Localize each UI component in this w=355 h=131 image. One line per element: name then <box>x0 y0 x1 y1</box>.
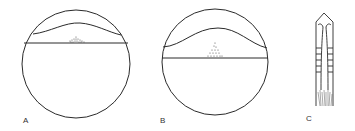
panel-c-stipple <box>318 90 332 106</box>
panel-c-segments <box>316 48 333 72</box>
panel-b-drawing <box>162 9 268 115</box>
panel-a-drawing <box>22 10 130 118</box>
figure-illustration <box>0 0 355 131</box>
panel-label-c: C <box>306 114 312 123</box>
panel-a-stipple <box>69 36 84 42</box>
panel-label-a: A <box>23 116 28 125</box>
panel-b-stipple <box>207 42 222 56</box>
panel-c-drawing <box>316 13 333 106</box>
panel-label-b: B <box>160 116 165 125</box>
